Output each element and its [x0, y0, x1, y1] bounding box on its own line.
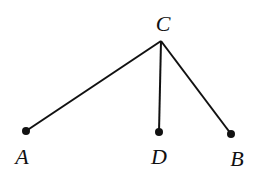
diagram-canvas: C A D B — [0, 0, 256, 175]
point-b-dot — [227, 130, 235, 138]
tree-diagram: C A D B — [0, 0, 256, 175]
label-a: A — [13, 144, 29, 169]
label-b: B — [230, 146, 243, 171]
edge-c-d — [159, 41, 161, 132]
label-c: C — [156, 11, 171, 36]
point-a-dot — [22, 127, 30, 135]
edge-c-b — [161, 41, 231, 134]
label-d: D — [150, 144, 167, 169]
point-d-dot — [155, 128, 163, 136]
edge-c-a — [26, 41, 161, 131]
